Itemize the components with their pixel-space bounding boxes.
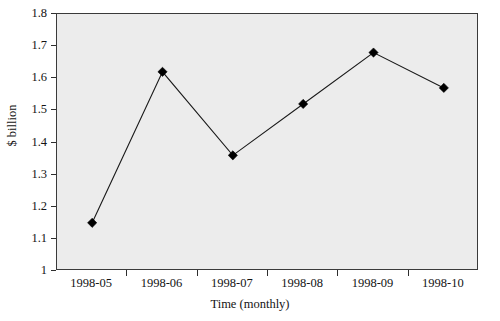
- y-axis-tick-mark: [51, 109, 56, 110]
- y-axis-tick-mark: [51, 174, 56, 175]
- y-axis-tick-label: 1.6: [31, 68, 47, 86]
- y-axis-tick-mark: [51, 206, 56, 207]
- y-axis-tick-mark: [51, 45, 56, 46]
- y-axis-tick-mark: [51, 13, 56, 14]
- data-point-marker: [369, 48, 378, 57]
- y-axis-tick-label: 1.7: [31, 36, 47, 54]
- data-point-marker: [439, 83, 448, 92]
- plot-svg: [57, 14, 479, 271]
- y-axis-tick-mark: [51, 238, 56, 239]
- data-markers: [88, 48, 449, 227]
- y-axis-title: $ billion: [5, 86, 20, 166]
- y-axis-tick-label: 1.4: [31, 133, 47, 151]
- data-point-marker: [299, 99, 308, 108]
- line-chart: 1.81.71.61.51.41.31.21.11 $ billion 1998…: [0, 0, 500, 321]
- x-axis-title: Time (monthly): [0, 297, 500, 312]
- y-axis-tick-label: 1.8: [31, 4, 47, 22]
- y-axis-tick-label: 1.3: [31, 165, 47, 183]
- data-line: [92, 53, 444, 223]
- y-axis-tick-mark: [51, 142, 56, 143]
- y-axis-tick-mark: [51, 77, 56, 78]
- y-axis-tick-mark: [51, 270, 56, 271]
- plot-area: [56, 13, 478, 270]
- x-axis-tick-label: 1998-10: [398, 276, 488, 291]
- data-point-marker: [88, 218, 97, 227]
- y-axis-tick-label: 1.2: [31, 197, 47, 215]
- y-axis-tick-label: 1.5: [31, 100, 47, 118]
- y-axis-tick-label: 1.1: [31, 229, 47, 247]
